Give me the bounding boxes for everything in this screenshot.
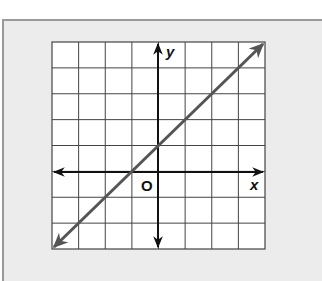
y-axis-label: y <box>165 43 175 60</box>
origin-label: O <box>141 177 153 194</box>
x-axis-label: x <box>249 176 259 193</box>
